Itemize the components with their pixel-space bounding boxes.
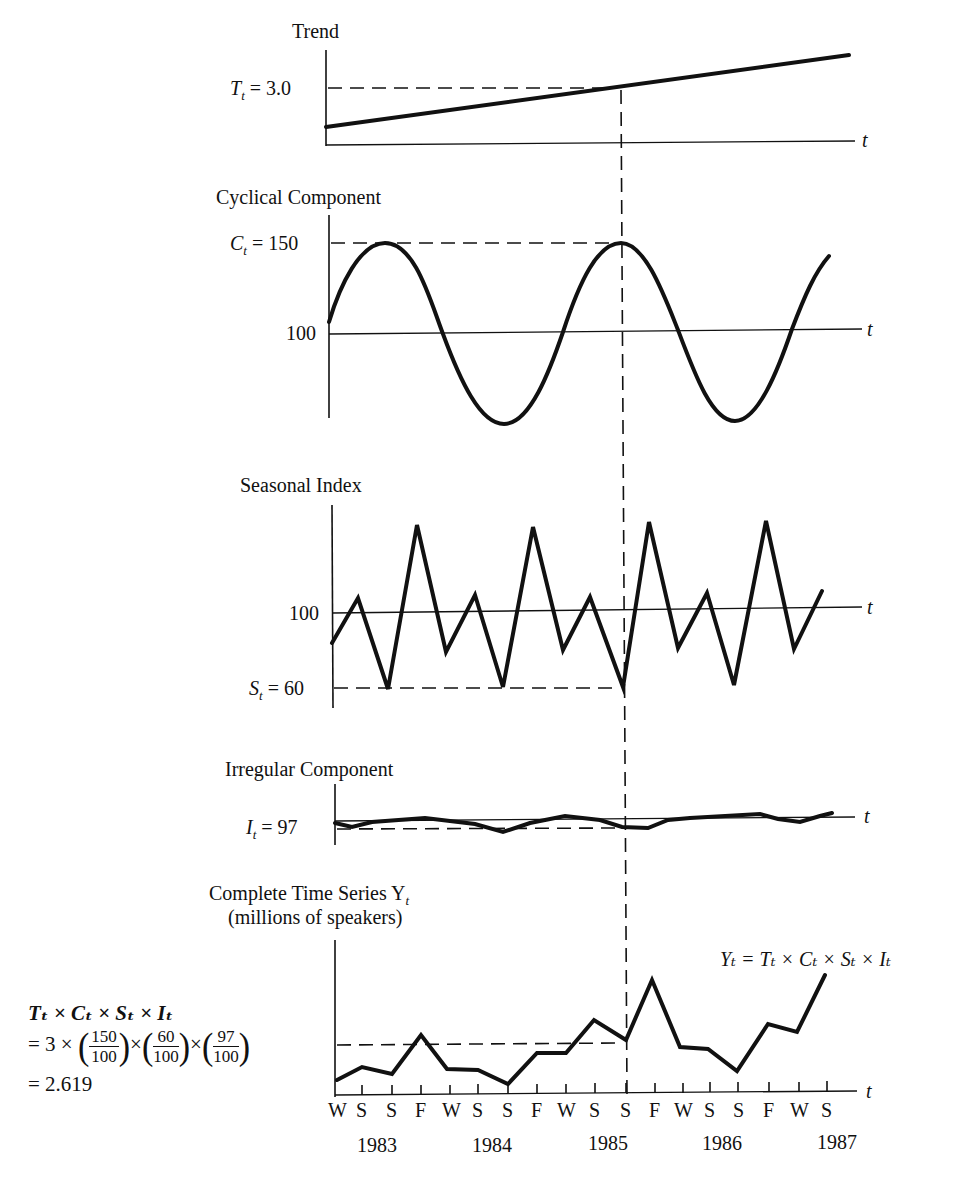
svg-text:1986: 1986 bbox=[702, 1132, 742, 1154]
computation-line1: Tₜ × Cₜ × Sₜ × Iₜ bbox=[28, 1003, 173, 1024]
svg-text:S: S bbox=[821, 1099, 832, 1121]
vertical-guide-dashed bbox=[621, 90, 627, 1095]
svg-text:W: W bbox=[328, 1099, 347, 1121]
cyclical-t-label: t bbox=[867, 318, 873, 340]
svg-text:1987: 1987 bbox=[817, 1131, 857, 1153]
complete-panel: Complete Time Series Yt (millions of spe… bbox=[209, 882, 891, 1156]
fraction-seasonal: 60100 bbox=[153, 1028, 179, 1065]
svg-text:S: S bbox=[356, 1099, 367, 1121]
complete-subtitle: (millions of speakers) bbox=[228, 906, 402, 929]
svg-text:W: W bbox=[790, 1099, 809, 1121]
fraction-cyclical: 150100 bbox=[89, 1028, 119, 1065]
irregular-title: Irregular Component bbox=[225, 758, 394, 781]
seasonal-baseline-label: 100 bbox=[289, 602, 319, 624]
seasonal-curve bbox=[332, 521, 822, 689]
svg-text:F: F bbox=[531, 1099, 542, 1121]
irregular-dashed-h bbox=[337, 828, 622, 829]
complete-series-curve bbox=[337, 975, 825, 1084]
svg-text:S: S bbox=[704, 1099, 715, 1121]
svg-text:F: F bbox=[649, 1099, 660, 1121]
cyclical-panel: Cyclical Component t 100 Ct = 150 bbox=[216, 186, 873, 424]
seasonal-panel: Seasonal Index t 100 St = 60 bbox=[240, 474, 873, 708]
svg-text:S: S bbox=[589, 1099, 600, 1121]
irregular-panel: Irregular Component t It = 97 bbox=[225, 758, 870, 845]
complete-dashed-h bbox=[337, 1043, 622, 1045]
trend-x-axis bbox=[326, 141, 855, 145]
svg-text:W: W bbox=[557, 1099, 576, 1121]
trend-t-label: t bbox=[862, 129, 868, 151]
year-labels: 1983 1984 1985 1986 1987 bbox=[357, 1131, 857, 1156]
cyclical-baseline-label: 100 bbox=[286, 322, 316, 344]
complete-x-axis bbox=[335, 1091, 857, 1095]
svg-text:S: S bbox=[502, 1099, 513, 1121]
cyclical-baseline bbox=[329, 329, 862, 334]
svg-text:S: S bbox=[620, 1099, 631, 1121]
complete-title: Complete Time Series Yt bbox=[209, 882, 409, 908]
svg-text:W: W bbox=[442, 1099, 461, 1121]
trend-panel: Trend t Tt = 3.0 bbox=[230, 20, 868, 151]
trend-line bbox=[326, 55, 849, 127]
svg-text:S: S bbox=[472, 1099, 483, 1121]
cyclical-value-label: Ct = 150 bbox=[230, 232, 298, 258]
svg-text:W: W bbox=[674, 1099, 693, 1121]
irregular-t-label: t bbox=[864, 805, 870, 827]
complete-ticks bbox=[362, 1081, 827, 1095]
svg-text:1983: 1983 bbox=[357, 1134, 397, 1156]
fraction-irregular: 97100 bbox=[213, 1028, 239, 1065]
season-tick-labels: W S S F W S S F W S S F W S S F W S bbox=[328, 1099, 832, 1121]
svg-text:S: S bbox=[386, 1099, 397, 1121]
irregular-value-label: It = 97 bbox=[245, 816, 298, 842]
complete-equation: Yₜ = Tₜ × Cₜ × Sₜ × Iₜ bbox=[720, 948, 891, 970]
computation-line2: = 3 × (150100)×(60100)×(97100) bbox=[28, 1028, 250, 1065]
seasonal-title: Seasonal Index bbox=[240, 474, 362, 496]
svg-text:F: F bbox=[763, 1099, 774, 1121]
seasonal-y-axis bbox=[332, 505, 333, 708]
seasonal-value-label: St = 60 bbox=[249, 677, 304, 703]
svg-text:1985: 1985 bbox=[588, 1132, 628, 1154]
svg-text:F: F bbox=[415, 1099, 426, 1121]
svg-text:S: S bbox=[733, 1099, 744, 1121]
seasonal-t-label: t bbox=[867, 596, 873, 618]
cyclical-title: Cyclical Component bbox=[216, 186, 381, 209]
svg-text:1984: 1984 bbox=[472, 1134, 512, 1156]
trend-value-label: Tt = 3.0 bbox=[230, 77, 291, 103]
complete-t-label: t bbox=[866, 1080, 872, 1102]
trend-title: Trend bbox=[292, 20, 339, 42]
computation-result: = 2.619 bbox=[28, 1074, 92, 1095]
